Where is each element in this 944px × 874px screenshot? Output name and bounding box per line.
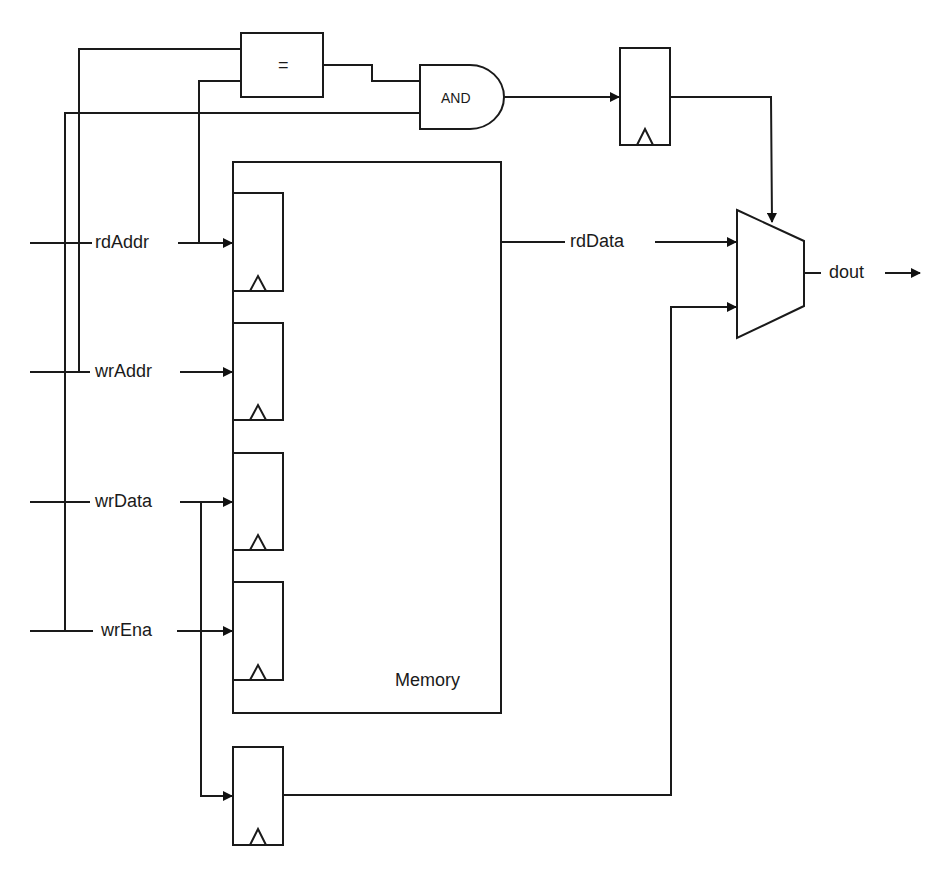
circuit-diagram: rdAddr wrAddr wrData wrEna rdData dout M… bbox=[0, 0, 944, 874]
register-input-arrows bbox=[177, 243, 232, 631]
wrdata-to-bypass-register-wire bbox=[201, 502, 232, 796]
memory-label: Memory bbox=[393, 670, 462, 690]
rdaddr-label: rdAddr bbox=[93, 232, 151, 252]
dout-label: dout bbox=[827, 262, 866, 282]
input-wires bbox=[30, 243, 93, 631]
wraddr-label: wrAddr bbox=[93, 361, 154, 381]
and-gate-label: AND bbox=[439, 88, 473, 108]
output-mux-shape bbox=[737, 210, 804, 338]
comparator-label: = bbox=[276, 55, 291, 75]
rddata-label: rdData bbox=[568, 231, 626, 251]
comparator-to-and-wire bbox=[323, 65, 420, 81]
wrdata-label: wrData bbox=[93, 491, 154, 511]
wraddr-to-comparator-wire bbox=[79, 49, 241, 372]
select-to-mux-wire bbox=[670, 97, 772, 222]
schematic-svg bbox=[0, 0, 944, 874]
wrena-label: wrEna bbox=[99, 620, 154, 640]
